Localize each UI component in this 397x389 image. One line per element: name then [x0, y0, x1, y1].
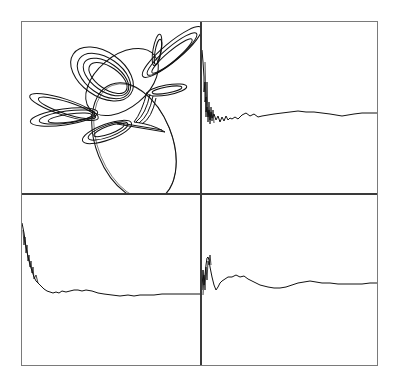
figure-grid	[21, 21, 378, 366]
line-plot-bottom-left	[22, 195, 200, 365]
line-plot-top-right	[202, 22, 377, 193]
timeseries-bottom-right	[202, 195, 377, 365]
attractor-plot	[22, 22, 200, 193]
timeseries-top-right	[202, 22, 377, 193]
line-plot-bottom-right	[202, 195, 377, 365]
timeseries-bottom-left	[22, 195, 200, 365]
attractor-panel	[22, 22, 200, 193]
